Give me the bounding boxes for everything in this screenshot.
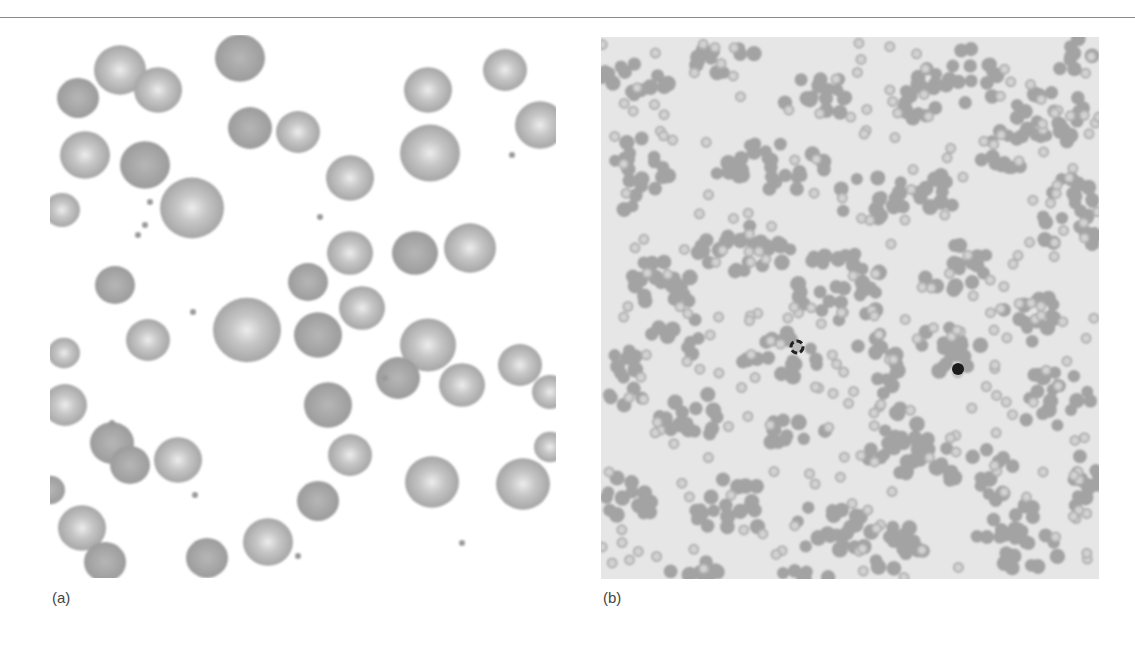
single-cell	[918, 546, 927, 555]
single-cell	[1081, 69, 1090, 78]
red-blood-cell	[228, 107, 272, 149]
agglutinated-cell	[965, 275, 979, 289]
agglutinated-cell	[614, 366, 627, 379]
single-cell	[946, 434, 955, 443]
agglutinated-cell	[931, 363, 947, 379]
single-cell	[1082, 334, 1091, 343]
single-cell	[967, 404, 976, 413]
single-cell	[601, 40, 607, 49]
single-cell	[601, 542, 607, 551]
platelet	[317, 214, 323, 220]
agglutinated-cell	[1038, 215, 1053, 230]
single-cell	[1000, 65, 1009, 74]
single-cell	[857, 55, 866, 64]
single-cell	[1002, 398, 1011, 407]
red-blood-cell	[215, 35, 265, 82]
single-cell	[811, 383, 820, 392]
agglutinated-cell	[744, 494, 759, 509]
single-cell	[642, 350, 651, 359]
platelet	[147, 199, 153, 205]
single-cell	[634, 547, 643, 556]
single-cell	[717, 59, 726, 68]
agglutinated-cell	[609, 507, 625, 523]
single-cell	[853, 68, 862, 77]
agglutinated-cell	[609, 349, 621, 361]
single-cell	[1085, 129, 1094, 138]
single-cell	[754, 247, 763, 256]
agglutinated-cell	[634, 171, 649, 186]
agglutinated-cell	[708, 505, 720, 517]
single-cell	[1000, 488, 1009, 497]
agglutinated-cell	[1036, 407, 1049, 420]
single-cell	[730, 43, 739, 52]
single-cell	[1080, 111, 1089, 120]
single-cell	[744, 209, 753, 218]
single-cell	[1046, 199, 1055, 208]
agglutinated-cell	[1045, 86, 1058, 99]
red-blood-cell	[483, 49, 527, 91]
agglutinated-cell	[1045, 309, 1057, 321]
single-cell	[767, 222, 776, 231]
agglutinated-cell	[624, 475, 639, 490]
single-cell	[776, 340, 785, 349]
agglutinated-cell	[896, 541, 911, 556]
single-cell	[766, 336, 775, 345]
agglutinated-cell	[701, 519, 715, 533]
single-cell	[940, 211, 949, 220]
single-cell	[651, 49, 660, 58]
agglutinated-cell	[998, 156, 1011, 169]
agglutinated-cell	[948, 239, 961, 252]
single-cell	[832, 75, 841, 84]
single-cell	[986, 276, 995, 285]
agglutinated-cell	[1010, 132, 1024, 146]
single-cell	[736, 92, 745, 101]
single-cell	[990, 461, 999, 470]
single-cell	[1065, 173, 1074, 182]
single-cell	[849, 387, 858, 396]
agglutinated-cell	[790, 182, 804, 196]
red-blood-cell	[57, 78, 99, 118]
single-cell	[766, 421, 775, 430]
single-cell	[1087, 52, 1096, 61]
single-cell	[836, 473, 845, 482]
agglutinated-cell	[1040, 320, 1056, 336]
single-cell	[1022, 493, 1031, 502]
agglutinated-cell	[800, 540, 812, 552]
single-cell	[927, 284, 936, 293]
agglutinated-cell	[693, 505, 709, 521]
agglutinated-cell	[791, 171, 803, 183]
single-cell	[828, 350, 837, 359]
single-cell	[1008, 410, 1017, 419]
single-cell	[1080, 233, 1089, 242]
agglutinated-cell	[774, 255, 790, 271]
single-cell	[637, 373, 646, 382]
single-cell	[1062, 357, 1071, 366]
single-cell	[1042, 366, 1051, 375]
agglutinated-cell	[682, 270, 698, 286]
single-cell	[1015, 299, 1024, 308]
agglutinated-cell	[953, 263, 966, 276]
single-cell	[625, 555, 634, 564]
agglutinated-cell	[1020, 413, 1033, 426]
single-cell	[617, 525, 626, 534]
top-rule	[0, 17, 1135, 18]
single-cell	[849, 271, 858, 280]
single-cell	[650, 100, 659, 109]
agglutinated-cell	[749, 138, 761, 150]
agglutinated-cell	[798, 433, 810, 445]
micrograph-b-image	[601, 37, 1099, 579]
single-cell	[745, 230, 754, 239]
agglutinated-cell	[946, 60, 959, 73]
single-cell	[1050, 238, 1059, 247]
single-cell	[625, 393, 634, 402]
single-cell	[1069, 512, 1078, 521]
single-cell	[1071, 436, 1080, 445]
single-cell	[695, 365, 704, 374]
caption-b: (b)	[603, 589, 621, 606]
red-blood-cell	[339, 286, 385, 330]
single-cell	[745, 316, 754, 325]
single-cell	[683, 309, 692, 318]
agglutinated-cell	[697, 244, 710, 257]
single-cell	[815, 109, 824, 118]
single-cell	[963, 251, 972, 260]
